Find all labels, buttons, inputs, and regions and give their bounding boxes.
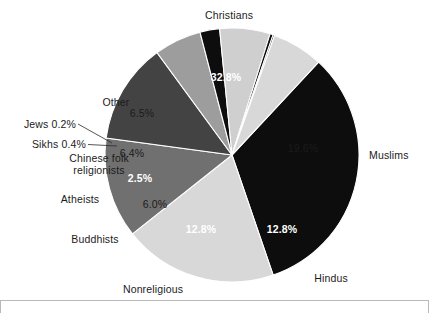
category-label-nonreligious: Nonreligious bbox=[123, 283, 183, 295]
category-label-chinese-folk-line2: religionists bbox=[73, 164, 124, 176]
category-label-other: Other bbox=[102, 96, 129, 108]
value-label-christians: 32.8% bbox=[211, 71, 242, 83]
pie-chart-figure: 32.8% 19.6% 12.8% 12.8% 6.0% 2.5% 6.4% 6… bbox=[0, 0, 429, 313]
pie-chart-svg: 32.8% 19.6% 12.8% 12.8% 6.0% 2.5% 6.4% 6… bbox=[0, 0, 429, 313]
value-label-nonreligious: 12.8% bbox=[186, 223, 217, 235]
value-label-hindus: 12.8% bbox=[267, 223, 298, 235]
value-label-other: 6.5% bbox=[130, 107, 154, 119]
category-label-sikhs: Sikhs 0.4% bbox=[32, 138, 86, 150]
category-label-buddhists: Buddhists bbox=[71, 233, 118, 245]
category-label-hindus: Hindus bbox=[314, 272, 348, 284]
category-label-muslims: Muslims bbox=[369, 149, 409, 161]
value-label-buddhists: 6.0% bbox=[143, 198, 167, 210]
category-label-jews: Jews 0.2% bbox=[24, 118, 76, 130]
value-label-muslims: 19.6% bbox=[288, 142, 318, 154]
category-label-christians: Christians bbox=[205, 9, 253, 21]
value-label-atheists: 2.5% bbox=[128, 172, 153, 184]
category-label-chinese-folk-line1: Chinese folk bbox=[69, 152, 129, 164]
category-label-atheists: Atheists bbox=[61, 193, 100, 205]
